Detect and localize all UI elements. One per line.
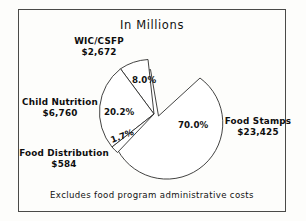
pie-label-child-nutrition-value: $6,760	[8, 108, 112, 119]
pie-label-food-stamps: Food Stamps $23,425	[215, 116, 301, 138]
pie-label-wic-csfp-value: $2,672	[56, 47, 142, 58]
pie-label-child-nutrition-name: Child Nutrition	[22, 97, 98, 107]
pie-label-child-nutrition: Child Nutrition $6,760	[8, 97, 112, 119]
pie-label-food-stamps-name: Food Stamps	[225, 116, 291, 126]
pie-label-food-distribution-name: Food Distribution	[19, 148, 109, 158]
pie-percent-food-stamps: 70.0%	[178, 120, 208, 130]
pie-chart-figure: In Millions 8.0% 20.2% 1.7% 70.0% WIC/CS…	[0, 0, 306, 221]
pie-percent-wic-csfp: 8.0%	[132, 75, 156, 85]
pie-label-food-distribution: Food Distribution $584	[8, 148, 120, 170]
pie-label-food-distribution-value: $584	[8, 159, 120, 170]
pie-label-wic-csfp-name: WIC/CSFP	[74, 36, 124, 46]
pie-label-wic-csfp: WIC/CSFP $2,672	[56, 36, 142, 58]
chart-caption: Excludes food program administrative cos…	[18, 190, 286, 200]
pie-label-food-stamps-value: $23,425	[215, 127, 301, 138]
